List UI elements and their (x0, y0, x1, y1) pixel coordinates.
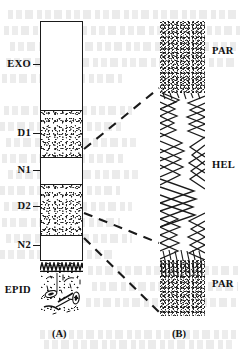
caption-panel-a: (A) (52, 328, 67, 339)
layer-d2 (41, 185, 82, 236)
label-layer-d1: D1 (2, 127, 31, 138)
layer-epid-epidermis (40, 262, 83, 316)
region-par-inner (160, 260, 205, 316)
epidermis-cell-detail (40, 262, 83, 316)
panel-b-magnified-lamellae (160, 21, 205, 316)
label-layer-n2: N2 (2, 239, 31, 250)
page-bleed-through-texture (0, 0, 246, 350)
tick-exo (33, 64, 41, 65)
tick-n2 (33, 245, 41, 246)
layer-n1 (41, 158, 82, 185)
tick-d1 (33, 133, 41, 134)
helicoidal-lamellae-pattern (160, 93, 205, 260)
leader-lower (84, 238, 159, 312)
label-layer-exo: EXO (2, 58, 31, 69)
caption-panel-b: (B) (172, 328, 186, 339)
label-region-hel: HEL (212, 159, 235, 170)
label-layer-n1: N1 (2, 164, 31, 175)
label-region-par-inner: PAR (212, 278, 234, 289)
leader-middle (84, 213, 159, 243)
leader-lines-group (0, 0, 246, 350)
figure-cuticle-cross-section: EXO D1 N1 D2 N2 EPID (0, 0, 246, 350)
label-region-par-outer: PAR (212, 45, 234, 56)
region-hel-helicoidal (160, 93, 205, 260)
leader-upper (84, 88, 159, 149)
layer-n2 (41, 236, 82, 260)
par-inner-transition-striations (160, 260, 205, 282)
label-layer-d2: D2 (2, 200, 31, 211)
panel-a-cuticle-column (40, 21, 83, 261)
layer-d1 (41, 111, 82, 158)
tick-d2 (33, 206, 41, 207)
layer-exo (41, 22, 82, 111)
region-par-outer (160, 21, 205, 93)
label-layer-epid: EPID (0, 284, 31, 295)
tick-n1 (33, 170, 41, 171)
